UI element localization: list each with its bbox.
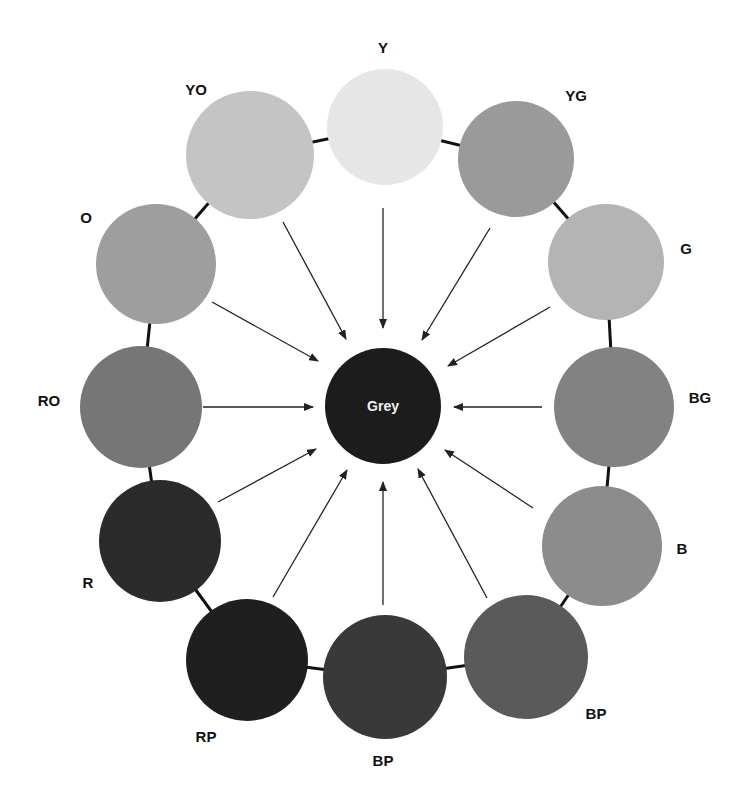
swatch-g	[548, 204, 664, 320]
swatch-r	[99, 480, 221, 602]
swatch-yo	[186, 91, 314, 219]
swatch-label-r: R	[83, 574, 94, 591]
swatch-bg	[554, 347, 674, 467]
arrow-icon	[445, 450, 533, 508]
swatch-yg	[458, 101, 574, 217]
arrow-icon	[212, 302, 318, 361]
swatch-label-g: G	[680, 240, 692, 257]
swatch-rp	[186, 599, 308, 721]
swatch-label-o: O	[80, 209, 92, 226]
swatch-b	[542, 486, 662, 606]
swatch-label-bp: BP	[373, 752, 394, 769]
arrow-icon	[422, 228, 490, 340]
swatch-label-bg: BG	[689, 389, 712, 406]
swatch-label-y: Y	[378, 39, 388, 56]
color-wheel-diagram: YYGGBGBBPBPRPRROOYO Grey	[0, 0, 750, 807]
arrow-icon	[448, 307, 550, 366]
swatch-label-b: B	[677, 540, 688, 557]
center-label: Grey	[367, 398, 399, 414]
swatch-label-rp: RP	[196, 728, 217, 745]
swatch-bp	[323, 615, 447, 739]
arrow-icon	[418, 469, 487, 598]
arrow-icon	[283, 222, 346, 339]
swatch-label-ro: RO	[38, 392, 61, 409]
swatch-o	[96, 204, 216, 324]
swatch-label-yo: YO	[185, 81, 207, 98]
swatch-bp	[464, 595, 588, 719]
swatch-label-bp: BP	[586, 705, 607, 722]
swatch-label-yg: YG	[565, 87, 587, 104]
swatch-y	[327, 69, 443, 185]
swatch-ro	[80, 346, 202, 468]
arrow-icon	[273, 470, 347, 597]
arrow-icon	[218, 449, 316, 502]
